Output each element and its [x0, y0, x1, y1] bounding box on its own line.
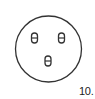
- figure-number-label: 10.: [79, 86, 93, 97]
- connector-outline: [16, 16, 82, 82]
- pin-bottom-icon: [45, 56, 51, 66]
- pin-top-left-icon: [32, 33, 38, 43]
- pin-top-right-icon: [59, 33, 65, 43]
